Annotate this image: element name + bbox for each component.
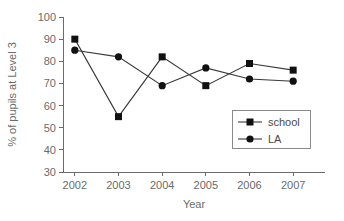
marker-school bbox=[159, 53, 166, 60]
x-tick-label: 2003 bbox=[106, 179, 130, 191]
marker-LA bbox=[159, 82, 166, 89]
marker-LA bbox=[202, 64, 209, 71]
marker-school bbox=[115, 113, 122, 120]
legend-label-school: school bbox=[268, 116, 300, 128]
legend-label-LA: LA bbox=[268, 133, 282, 145]
marker-LA bbox=[71, 47, 78, 54]
marker-LA bbox=[290, 78, 297, 85]
y-tick-label: 30 bbox=[44, 166, 56, 178]
x-tick-label: 2005 bbox=[194, 179, 218, 191]
y-tick-label: 50 bbox=[44, 122, 56, 134]
legend-marker-circle-icon bbox=[246, 135, 253, 142]
y-tick-label: 80 bbox=[44, 55, 56, 67]
x-tick-label: 2002 bbox=[63, 179, 87, 191]
marker-LA bbox=[115, 53, 122, 60]
marker-LA bbox=[246, 75, 253, 82]
y-axis-title: % of pupils at Level 3 bbox=[6, 42, 18, 147]
x-tick-label: 2006 bbox=[237, 179, 261, 191]
series-line-LA bbox=[75, 50, 293, 85]
y-tick-label: 90 bbox=[44, 33, 56, 45]
y-tick-label: 70 bbox=[44, 77, 56, 89]
marker-school bbox=[202, 82, 209, 89]
marker-school bbox=[71, 36, 78, 43]
chart-canvas: 3040506070809010020022003200420052006200… bbox=[0, 0, 344, 221]
series-line-school bbox=[75, 39, 293, 117]
x-tick-label: 2007 bbox=[281, 179, 305, 191]
y-tick-label: 40 bbox=[44, 144, 56, 156]
x-tick-label: 2004 bbox=[150, 179, 174, 191]
x-axis-title: Year bbox=[183, 198, 206, 210]
legend-marker-square-icon bbox=[247, 119, 254, 126]
line-chart: 3040506070809010020022003200420052006200… bbox=[0, 0, 344, 221]
y-tick-label: 60 bbox=[44, 100, 56, 112]
marker-school bbox=[290, 67, 297, 74]
y-tick-label: 100 bbox=[38, 11, 56, 23]
marker-school bbox=[246, 60, 253, 67]
